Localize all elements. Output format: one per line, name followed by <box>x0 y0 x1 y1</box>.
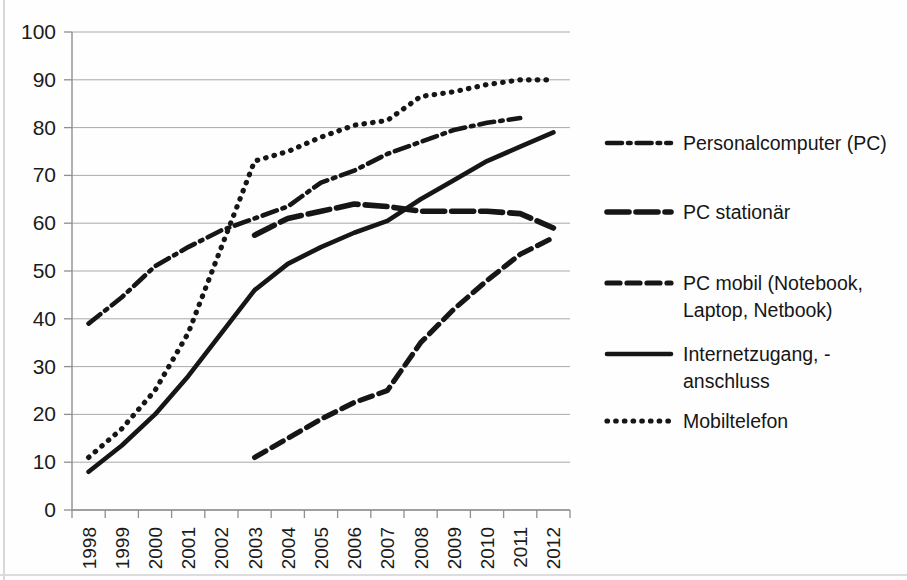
x-axis-tick-label: 1998 <box>79 527 100 569</box>
y-axis-tick-label: 50 <box>33 259 56 282</box>
x-axis-labels-group: 1998199920002001200220032004200520062007… <box>79 527 565 570</box>
series-line-1 <box>89 118 521 324</box>
y-axis-tick-label: 30 <box>33 355 56 378</box>
y-axis-tick-label: 80 <box>33 116 56 139</box>
legend-label-4: anschluss <box>683 370 770 392</box>
legend-label-2: PC stationär <box>683 201 791 223</box>
x-axis-tick-label: 2006 <box>344 527 365 569</box>
y-axis-tick-label: 90 <box>33 68 56 91</box>
data-series-group <box>89 80 554 472</box>
x-axis-tick-label: 2004 <box>278 527 299 570</box>
legend-label-3: PC mobil (Notebook, <box>683 272 863 294</box>
x-axis-tick-label: 2005 <box>311 527 332 569</box>
x-axis-tick-label: 2002 <box>211 527 232 569</box>
x-axis-tick-label: 2000 <box>145 527 166 569</box>
y-axis-ticks-group <box>64 32 72 510</box>
y-axis-tick-label: 60 <box>33 211 56 234</box>
x-axis-ticks-group <box>72 510 570 518</box>
legend-label-4: Internetzugang, - <box>683 343 830 365</box>
chart-container: 0102030405060708090100 19981999200020012… <box>0 0 907 580</box>
x-axis-tick-label: 2010 <box>477 527 498 569</box>
legend-label-5: Mobiltelefon <box>683 410 788 432</box>
line-chart-plot: 0102030405060708090100 19981999200020012… <box>0 0 907 580</box>
legend-label-1: Personalcomputer (PC) <box>683 132 887 154</box>
y-axis-tick-label: 40 <box>33 307 56 330</box>
y-axis-tick-label: 10 <box>33 450 56 473</box>
x-axis-tick-label: 2008 <box>411 527 432 569</box>
x-axis-tick-label: 2003 <box>245 527 266 569</box>
y-axis-tick-label: 100 <box>21 20 56 43</box>
y-axis-tick-label: 70 <box>33 163 56 186</box>
x-axis-tick-label: 2009 <box>444 527 465 569</box>
x-axis-tick-label: 1999 <box>112 527 133 569</box>
x-axis-tick-label: 2007 <box>377 527 398 569</box>
legend-label-3: Laptop, Netbook) <box>683 299 833 321</box>
x-axis-tick-label: 2001 <box>178 527 199 569</box>
x-axis-tick-label: 2012 <box>543 527 564 569</box>
y-axis-tick-label: 20 <box>33 402 56 425</box>
y-axis-labels-group: 0102030405060708090100 <box>21 20 56 521</box>
y-axis-tick-label: 0 <box>44 498 56 521</box>
chart-legend: Personalcomputer (PC)PC stationärPC mobi… <box>607 132 887 432</box>
x-axis-tick-label: 2011 <box>510 527 531 568</box>
series-line-5 <box>89 80 554 458</box>
